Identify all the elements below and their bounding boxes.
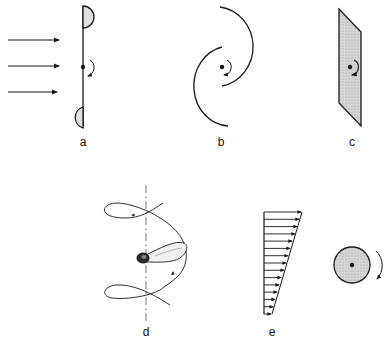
samara-wing [146,242,187,262]
panel-label-e: e [269,325,276,339]
outer-vane [220,7,253,86]
panel-b: b [194,7,253,149]
pivot-dot [348,65,352,69]
cylinder-center-dot [350,263,354,267]
trajectory-arrow-icon [171,271,175,275]
panel-label-b: b [218,135,225,149]
panel-label-d: d [143,325,150,339]
panel-a: a [8,6,94,149]
shear-profile [264,212,302,314]
flow-arrows [8,40,59,92]
panel-label-a: a [80,135,87,149]
panel-label-c: c [349,135,355,149]
pivot-dot [81,65,85,69]
seed-highlight [142,255,147,259]
trajectory-arrow-icon [131,214,135,217]
diagram-canvas: a b c d [0,0,389,342]
upper-cup [83,6,94,28]
inner-vane [194,47,228,126]
rotation-arrow-icon [88,60,94,76]
panel-c: c [339,9,361,149]
panel-e: e [264,212,382,339]
pivot-dot [220,65,224,69]
rotation-arrow-icon [224,60,231,75]
panel-d: d [104,185,186,339]
lower-cup [75,107,83,128]
rotation-arrow-icon [376,251,382,279]
